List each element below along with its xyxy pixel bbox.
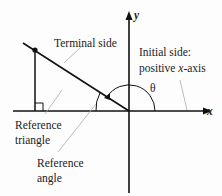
initial-side-label-line2: positive x-axis — [139, 62, 206, 75]
y-axis-arrow-icon — [126, 11, 133, 20]
x-axis-label: x — [206, 105, 213, 117]
diagram-canvas: Terminal side Initial side: positive x-a… — [0, 0, 222, 196]
reference-triangle-label-line2: triangle — [15, 134, 50, 147]
initial-side-label-line1: Initial side: — [139, 46, 191, 58]
initial-side-leader — [180, 80, 187, 110]
reference-angle-arc — [96, 93, 100, 111]
y-axis-label: y — [132, 9, 140, 22]
theta-arc-arrow-icon — [104, 93, 110, 100]
terminal-side-label: Terminal side — [54, 37, 117, 49]
reference-angle-diagram: Terminal side Initial side: positive x-a… — [0, 0, 222, 196]
theta-arc — [107, 85, 155, 111]
initial-side-prefix: positive — [139, 62, 178, 75]
reference-angle-label-line2: angle — [37, 172, 62, 185]
right-angle-marker — [35, 103, 43, 111]
initial-side-suffix: -axis — [183, 62, 206, 74]
theta-label: θ — [150, 82, 156, 94]
reference-triangle-label-line1: Reference — [15, 119, 62, 131]
terminal-side-line — [23, 43, 129, 111]
reference-angle-label-line1: Reference — [37, 157, 84, 169]
